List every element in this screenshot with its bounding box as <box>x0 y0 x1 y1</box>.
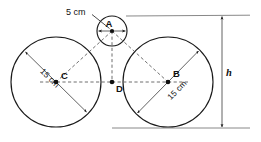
geometry-diagram: 5 cm A C B D 15 cm 15 cm h <box>0 0 261 142</box>
label-point-d: D <box>116 83 123 94</box>
connector-a-to-b <box>112 31 168 82</box>
top-extension-line <box>126 15 250 16</box>
label-5cm: 5 cm <box>66 7 86 17</box>
point-a-dot <box>110 29 114 33</box>
label-height-h: h <box>226 67 232 78</box>
diagram-canvas: 5 cm A C B D 15 cm 15 cm h <box>0 0 261 142</box>
label-point-c: C <box>61 70 68 81</box>
point-b-dot <box>166 80 171 85</box>
label-point-b: B <box>173 68 180 79</box>
label-point-a: A <box>106 18 113 29</box>
point-d-dot <box>110 80 115 85</box>
label-15cm-left: 15 cm <box>38 67 61 90</box>
